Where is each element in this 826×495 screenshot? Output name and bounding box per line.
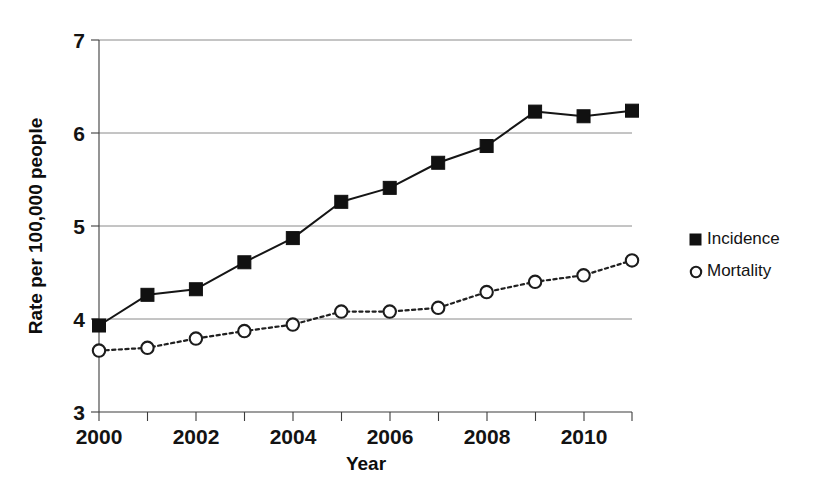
y-tick-label-7: 7: [73, 29, 85, 52]
x-tick-label-2000: 2000: [76, 425, 123, 448]
x-tick-label-2004: 2004: [270, 425, 317, 448]
data-point: [335, 195, 348, 208]
line-chart: 7 6 5 4 3 2000 2002 2004 2006: [0, 0, 826, 495]
data-point: [190, 332, 202, 344]
y-tick-label-4: 4: [73, 308, 85, 331]
data-point: [383, 181, 396, 194]
y-tick-label-6: 6: [73, 122, 85, 145]
data-point: [626, 104, 639, 117]
x-tick-label-2002: 2002: [173, 425, 220, 448]
legend-label-mortality: Mortality: [707, 261, 772, 280]
y-tick-label-5: 5: [73, 215, 85, 238]
data-point: [432, 156, 445, 169]
data-point: [287, 318, 299, 330]
data-point: [626, 254, 638, 266]
legend-label-incidence: Incidence: [707, 229, 780, 248]
data-point: [141, 342, 153, 354]
data-point: [480, 140, 493, 153]
data-point: [335, 305, 347, 317]
x-tick-label-2008: 2008: [464, 425, 511, 448]
x-tick-label-2010: 2010: [561, 425, 608, 448]
data-point: [286, 232, 299, 245]
legend-marker-incidence-icon: [690, 234, 701, 245]
data-point: [93, 344, 105, 356]
chart-background: [0, 0, 826, 495]
y-axis-title: Rate per 100,000 people: [25, 118, 46, 335]
y-tick-label-3: 3: [73, 401, 85, 424]
data-point: [93, 319, 106, 332]
x-tick-label-2006: 2006: [367, 425, 414, 448]
data-point: [189, 283, 202, 296]
data-point: [432, 302, 444, 314]
data-point: [577, 110, 590, 123]
data-point: [480, 286, 492, 298]
data-point: [238, 256, 251, 269]
chart-container: 7 6 5 4 3 2000 2002 2004 2006: [0, 0, 826, 495]
data-point: [529, 105, 542, 118]
legend-marker-mortality-icon: [691, 267, 701, 277]
data-point: [384, 305, 396, 317]
data-point: [577, 269, 589, 281]
data-point: [529, 276, 541, 288]
data-point: [238, 325, 250, 337]
x-axis-title: Year: [346, 453, 387, 474]
data-point: [141, 288, 154, 301]
